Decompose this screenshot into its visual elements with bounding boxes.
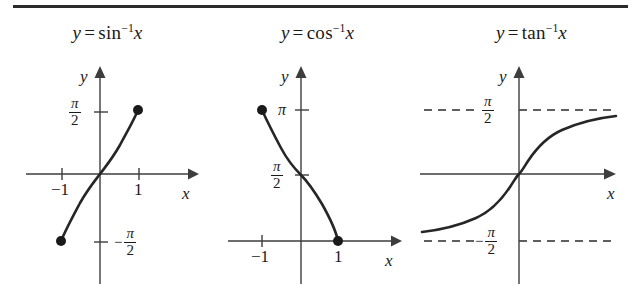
y-axis-label: y — [499, 68, 507, 85]
endpoint-dot-upper — [133, 105, 143, 115]
fraction-numerator: π — [482, 94, 494, 109]
x-tick-label-pos1: 1 — [334, 248, 343, 265]
x-tick-label-neg1: −1 — [251, 248, 269, 265]
x-axis-arrowhead — [391, 236, 402, 247]
x-tick-label-pos1: 1 — [134, 181, 143, 198]
fraction-denominator: 2 — [485, 242, 497, 257]
minus-sign: − — [475, 234, 485, 249]
fraction-numerator: π — [124, 226, 136, 241]
x-axis-arrowhead — [604, 169, 616, 180]
panel-arcsin: y=sin−1x x y −1 1 π 2 — [0, 0, 215, 301]
asymptote-label-pi-over-2: π 2 — [482, 94, 494, 127]
x-axis-label: x — [607, 185, 615, 202]
arctan-plot-svg — [420, 0, 643, 301]
fraction-denominator: 2 — [69, 113, 81, 128]
y-tick-label-neg-pi-over-2: − π 2 — [114, 226, 136, 259]
inverse-trig-graphs-figure: y=sin−1x x y −1 1 π 2 — [0, 0, 643, 301]
y-axis-label: y — [80, 68, 88, 85]
asymptote-label-neg-pi-over-2: − π 2 — [475, 225, 497, 258]
y-tick-label-pi: π — [278, 102, 286, 118]
endpoint-dot-lower — [333, 236, 343, 246]
fraction-stack: π 2 — [124, 226, 136, 259]
panel-arctan: y=tan−1x x y π 2 − π — [420, 0, 643, 301]
panel-arccos: y=cos−1x x y −1 1 π π 2 — [215, 0, 420, 301]
fraction-numerator: π — [485, 225, 497, 240]
endpoint-dot-upper — [257, 105, 267, 115]
y-axis-label: y — [281, 68, 289, 85]
minus-sign: − — [114, 235, 124, 250]
y-tick-label-pi-over-2: π 2 — [271, 159, 283, 192]
fraction-denominator: 2 — [124, 243, 136, 258]
y-tick-label-pi-over-2: π 2 — [69, 96, 81, 129]
x-axis-arrowhead — [188, 169, 199, 180]
fraction-denominator: 2 — [271, 176, 283, 191]
y-axis-arrowhead — [95, 66, 106, 78]
fraction-stack: π 2 — [485, 225, 497, 258]
fraction-numerator: π — [69, 96, 81, 111]
y-axis-arrowhead — [296, 66, 307, 78]
fraction-denominator: 2 — [482, 111, 494, 126]
arcsin-plot-svg — [0, 0, 215, 301]
endpoint-dot-lower — [56, 236, 66, 246]
fraction-numerator: π — [271, 159, 283, 174]
x-axis-label: x — [182, 185, 190, 202]
x-tick-label-neg1: −1 — [51, 181, 69, 198]
y-axis-arrowhead — [514, 66, 525, 78]
x-axis-label: x — [385, 252, 393, 269]
